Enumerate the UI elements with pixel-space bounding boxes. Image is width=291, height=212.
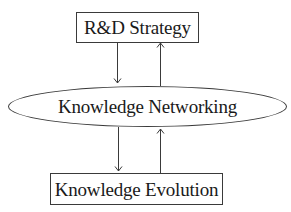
knowledge-evolution-label: Knowledge Evolution (55, 180, 218, 199)
knowledge-evolution-node: Knowledge Evolution (50, 173, 223, 205)
rd-strategy-node: R&D Strategy (76, 12, 199, 43)
arrow-networking-to-strategy (157, 43, 164, 86)
arrow-strategy-to-networking (114, 43, 121, 83)
arrow-networking-to-evolution (115, 127, 122, 171)
arrow-evolution-to-networking (157, 129, 164, 173)
rd-strategy-label: R&D Strategy (84, 18, 191, 37)
knowledge-networking-label: Knowledge Networking (58, 97, 237, 116)
knowledge-networking-node: Knowledge Networking (8, 86, 287, 127)
